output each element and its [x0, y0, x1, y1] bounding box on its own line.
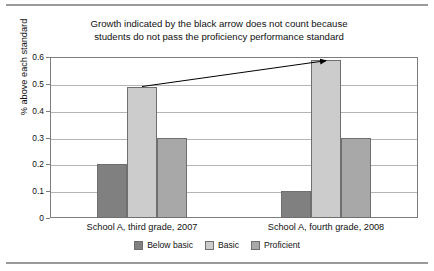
y-tick-label: 0.2	[4, 159, 44, 169]
chart-legend: Below basicBasicProficient	[0, 240, 434, 250]
legend-label: Proficient	[264, 240, 300, 250]
y-tick-mark	[46, 111, 50, 112]
y-tick-label: 0.3	[4, 133, 44, 143]
y-tick-label: 0.4	[4, 106, 44, 116]
legend-item-below-basic[interactable]: Below basic	[134, 240, 193, 250]
legend-item-basic[interactable]: Basic	[205, 240, 239, 250]
y-tick-mark	[46, 57, 50, 58]
y-tick-mark	[46, 138, 50, 139]
legend-swatch-icon	[205, 241, 214, 250]
legend-label: Basic	[218, 240, 239, 250]
y-tick-mark	[46, 218, 50, 219]
y-tick-mark	[46, 191, 50, 192]
legend-item-proficient[interactable]: Proficient	[251, 240, 300, 250]
legend-label: Below basic	[147, 240, 193, 250]
legend-swatch-icon	[251, 241, 260, 250]
category-label-0: School A, third grade, 2007	[52, 222, 232, 232]
y-tick-label: 0.6	[4, 52, 44, 62]
y-tick-label: 0	[4, 213, 44, 223]
y-tick-label: 0.1	[4, 186, 44, 196]
chart-figure: Growth indicated by the black arrow does…	[0, 0, 434, 271]
growth-arrow	[142, 61, 326, 87]
y-tick-mark	[46, 164, 50, 165]
category-label-1: School A, fourth grade, 2008	[236, 222, 416, 232]
y-tick-mark	[46, 84, 50, 85]
y-tick-label: 0.5	[4, 79, 44, 89]
legend-swatch-icon	[134, 241, 143, 250]
